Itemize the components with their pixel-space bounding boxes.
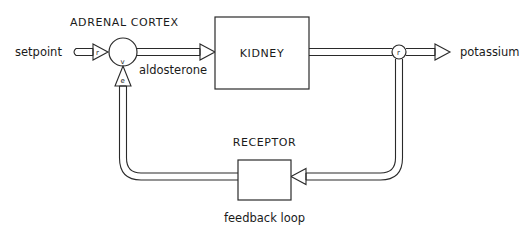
feedback-loop-caption: feedback loop [224,211,305,225]
setpoint-arrow-r-label: r [96,49,99,57]
aldosterone-label: aldosterone [139,63,207,77]
potassium-arrow [406,44,450,60]
aldosterone-arrow [137,44,215,60]
adrenal-cortex-label: ADRENAL CORTEX [70,16,179,29]
adrenal-vertex-v-label: v [121,58,125,66]
receptor-node [238,160,291,200]
potassium-label: potassium [460,45,520,59]
kidney-output-line [309,49,393,56]
output-junction-r-label: r [397,49,400,57]
kidney-label: KIDNEY [240,47,284,60]
feedback-control-diagram: ADRENAL CORTEX setpoint r v aldosterone … [0,0,531,235]
output-junction-node: r [392,45,406,59]
setpoint-arrow: r [74,44,108,60]
receptor-label: RECEPTOR [233,136,297,149]
kidney-node: KIDNEY [215,17,309,89]
adrenal-cortex-node: v [109,38,137,66]
error-arrow-e-label: e [121,77,125,85]
setpoint-label: setpoint [15,45,62,59]
